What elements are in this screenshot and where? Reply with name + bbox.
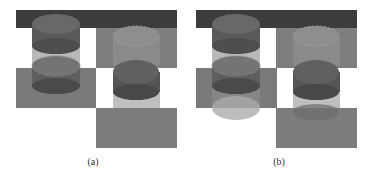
caption-a: (a) (0, 156, 186, 167)
panel-a: (a) (0, 0, 186, 184)
panel-b: (b) (186, 0, 372, 184)
caption-b: (b) (186, 156, 372, 167)
